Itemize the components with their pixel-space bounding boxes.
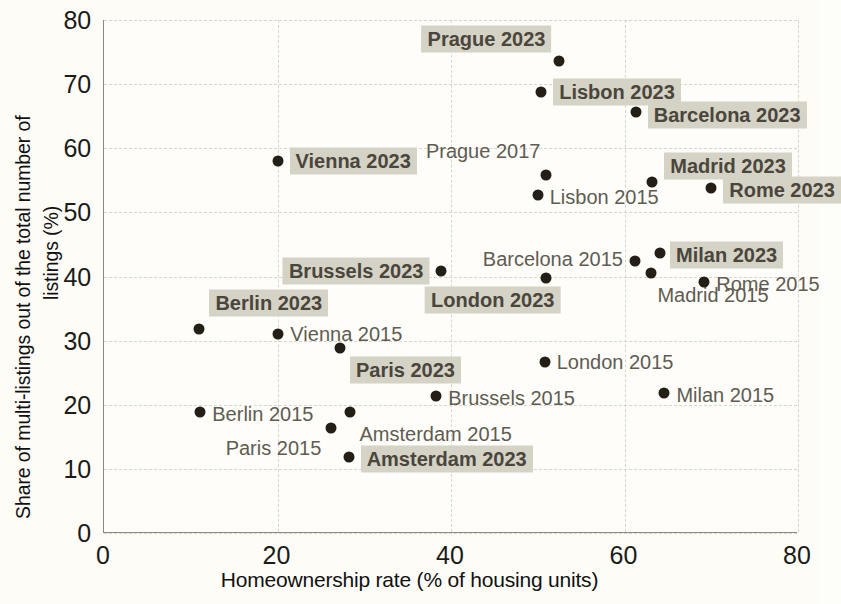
data-point-label: Vienna 2023 [290,148,417,175]
plot-area: Prague 2023Prague 2017Lisbon 2023Lisbon … [103,20,797,533]
y-axis-tick-label: 60 [31,134,91,163]
data-point-label: Paris 2023 [350,356,461,383]
data-point [630,107,641,118]
data-point [436,265,447,276]
x-axis-label: Homeownership rate (% of housing units) [0,568,819,592]
x-axis-tick-label: 40 [415,541,485,570]
data-point-label: Amsterdam 2015 [360,424,512,444]
data-point [629,256,640,267]
data-point-label: Brussels 2023 [283,257,430,284]
data-point-label: Lisbon 2015 [550,187,659,207]
y-axis-tick-label: 80 [31,6,91,35]
data-point-label: Madrid 2023 [664,152,792,179]
data-point [541,170,552,181]
data-point [344,406,355,417]
data-point [195,407,206,418]
data-point-label: Berlin 2023 [209,290,328,317]
data-point-label: Vienna 2015 [290,324,402,344]
data-point-label: Barcelona 2015 [483,249,623,269]
data-point-label: Rome 2023 [723,177,841,204]
data-point [343,452,354,463]
data-point [699,276,710,287]
data-point-label: Paris 2015 [226,438,322,458]
data-point-label: London 2023 [425,286,560,313]
y-axis-tick-label: 70 [31,70,91,99]
x-axis-tick-label: 0 [68,541,138,570]
data-point-label: Amsterdam 2023 [361,446,533,473]
data-point [431,391,442,402]
data-point [272,156,283,167]
data-point [194,324,205,335]
data-point [659,388,670,399]
data-point [536,86,547,97]
y-axis-tick-label: 30 [31,326,91,355]
data-point [273,328,284,339]
data-point-label: Prague 2023 [422,26,552,53]
data-point [706,183,717,194]
data-point-label: Brussels 2015 [448,388,575,408]
data-point [334,342,345,353]
data-point-label: Milan 2015 [676,385,774,405]
data-point [532,190,543,201]
y-axis-tick-label: 10 [31,454,91,483]
y-axis-tick-label: 40 [31,262,91,291]
data-point-label: Prague 2017 [426,141,541,161]
data-point [326,423,337,434]
data-point [554,56,565,67]
data-point-label: Barcelona 2023 [648,102,807,129]
data-point [541,272,552,283]
y-axis-tick-label: 20 [31,390,91,419]
x-axis-tick-label: 60 [589,541,659,570]
data-point [539,357,550,368]
data-point [646,267,657,278]
data-point-label: London 2015 [557,352,674,372]
x-axis-tick-label: 80 [762,541,832,570]
data-point [647,176,658,187]
data-point-label: Milan 2023 [670,241,783,268]
data-point [655,247,666,258]
data-point-label: Berlin 2015 [212,404,313,424]
gridline-horizontal [104,533,797,534]
y-axis-tick-label: 50 [31,198,91,227]
x-axis-tick-label: 20 [242,541,312,570]
data-point-label: Rome 2015 [716,274,819,294]
